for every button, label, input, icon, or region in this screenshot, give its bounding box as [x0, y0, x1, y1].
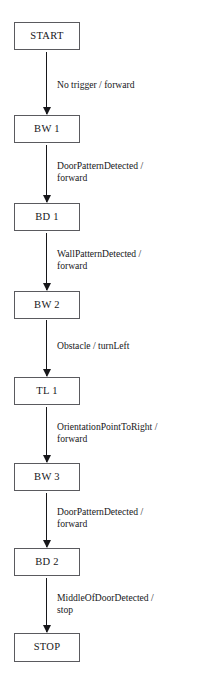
arrowhead-icon — [43, 540, 51, 548]
state-label-bw1: BW 1 — [34, 124, 60, 135]
arrowhead-icon — [43, 107, 51, 115]
transition-label-bd1-to-bw2: WallPatternDetected / forward — [57, 248, 213, 271]
state-label-bw3: BW 3 — [34, 472, 60, 483]
state-label-bd2: BD 2 — [35, 557, 59, 568]
state-box-bw3[interactable]: BW 3 — [14, 463, 80, 491]
transition-arrow-bw2-to-tl1 — [46, 320, 47, 376]
state-label-stop: STOP — [34, 642, 61, 653]
state-box-bw1[interactable]: BW 1 — [14, 115, 80, 143]
transition-arrow-start-to-bw1 — [46, 52, 47, 114]
transition-arrow-tl1-to-bw3 — [46, 407, 47, 462]
state-label-tl1: TL 1 — [36, 386, 58, 397]
state-transition-diagram: START BW 1 BD 1 BW 2 TL 1 BW 3 BD 2 STOP — [0, 0, 213, 682]
arrowhead-icon — [43, 283, 51, 291]
state-box-stop[interactable]: STOP — [14, 633, 80, 662]
transition-arrow-bd1-to-bw2 — [46, 233, 47, 290]
transition-label-start-to-bw1: No trigger / forward — [57, 79, 213, 91]
state-box-bd2[interactable]: BD 2 — [14, 548, 80, 576]
state-box-tl1[interactable]: TL 1 — [14, 377, 80, 405]
arrowhead-icon — [43, 195, 51, 203]
transition-label-bw1-to-bd1: DoorPatternDetected / forward — [57, 160, 213, 183]
transition-arrow-bw3-to-bd2 — [46, 493, 47, 547]
state-box-bd1[interactable]: BD 1 — [14, 203, 80, 231]
transition-label-bw2-to-tl1: Obstacle / turnLeft — [57, 340, 213, 352]
state-label-start: START — [30, 31, 63, 42]
state-label-bd1: BD 1 — [35, 212, 59, 223]
state-box-bw2[interactable]: BW 2 — [14, 291, 80, 319]
transition-label-bw3-to-bd2: DoorPatternDetected / forward — [57, 506, 213, 529]
transition-label-bd2-to-stop: MiddleOfDoorDetected / stop — [57, 592, 213, 615]
transition-arrow-bd2-to-stop — [46, 578, 47, 632]
transition-arrow-bw1-to-bd1 — [46, 145, 47, 202]
state-label-bw2: BW 2 — [34, 300, 60, 311]
transition-label-tl1-to-bw3: OrientationPointToRight / forward — [57, 421, 213, 444]
arrowhead-icon — [43, 455, 51, 463]
state-box-start[interactable]: START — [14, 22, 80, 50]
arrowhead-icon — [43, 369, 51, 377]
arrowhead-icon — [43, 625, 51, 633]
